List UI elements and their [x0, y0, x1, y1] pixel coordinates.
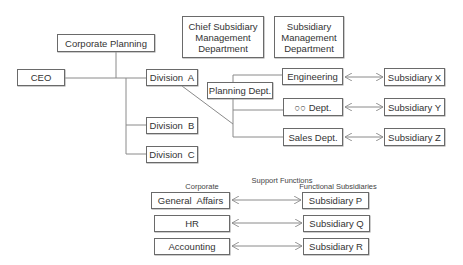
box-label: Subsidiary Y: [388, 102, 441, 113]
box-label: Corporate Planning: [65, 38, 147, 49]
box-label: CEO: [31, 72, 52, 83]
subsidiary-z-box: Subsidiary Z: [384, 128, 445, 146]
box-label: Subsidiary P: [309, 195, 362, 206]
box-label: Sales Dept.: [288, 132, 337, 143]
ceo-box: CEO: [17, 69, 65, 86]
box-label: Division A: [150, 72, 194, 83]
box-label: Subsidiary Z: [388, 132, 441, 143]
subsidiary-x-box: Subsidiary X: [384, 68, 445, 86]
subsidiary-p-box: Subsidiary P: [302, 192, 369, 209]
oo-dept-box: ○○ Dept.: [283, 98, 343, 116]
subsidiary-q-box: Subsidiary Q: [303, 215, 370, 232]
box-label: Accounting: [168, 241, 215, 252]
hr-box: HR: [154, 215, 230, 232]
box-label: Division C: [149, 149, 194, 160]
box-label: Subsidiary Q: [309, 218, 363, 229]
planning-dept-box: Planning Dept.: [207, 82, 273, 99]
box-label: Planning Dept.: [209, 85, 271, 96]
box-label: Subsidiary Management Department: [277, 21, 341, 54]
chief-subsidiary-mgmt-box: Chief Subsidiary Management Department: [182, 16, 264, 58]
division-c-box: Division C: [146, 146, 198, 163]
subsidiary-r-box: Subsidiary R: [303, 238, 369, 255]
accounting-box: Accounting: [154, 238, 230, 255]
box-label: ○○ Dept.: [295, 102, 332, 113]
corporate-planning-box: Corporate Planning: [57, 34, 155, 52]
box-label: Subsidiary R: [309, 241, 363, 252]
engineering-box: Engineering: [282, 68, 343, 85]
box-label: Division B: [150, 120, 195, 131]
general-affairs-box: General Affairs: [151, 192, 230, 209]
functional-subsidiaries-header: Functional Subsidiaries: [299, 182, 377, 191]
division-b-box: Division B: [146, 117, 198, 134]
sales-dept-box: Sales Dept.: [283, 128, 343, 146]
box-label: Chief Subsidiary Management Department: [187, 21, 259, 54]
box-label: Engineering: [287, 71, 338, 82]
box-label: General Affairs: [158, 195, 223, 206]
division-a-box: Division A: [146, 69, 198, 86]
subsidiary-y-box: Subsidiary Y: [384, 98, 445, 116]
corporate-header: Corporate: [185, 182, 218, 191]
box-label: Subsidiary X: [388, 72, 441, 83]
subsidiary-mgmt-box: Subsidiary Management Department: [274, 16, 344, 58]
box-label: HR: [185, 218, 199, 229]
